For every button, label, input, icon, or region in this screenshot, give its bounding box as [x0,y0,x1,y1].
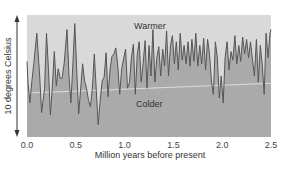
y-axis-label: 10 degrees Celsius [3,37,13,115]
x-axis-label: Million years before present [95,150,206,160]
x-tick-label: 1.5 [167,140,180,150]
x-tick-label: 2.0 [216,140,229,150]
temperature-chart: Warmer Colder 10 degrees Celsius 0.00.51… [0,0,293,171]
annotation-warmer: Warmer [134,21,166,31]
annotation-colder: Colder [136,99,163,109]
x-tick-label: 2.5 [265,140,278,150]
arrow-down-icon [15,130,20,137]
x-tick-label: 0.0 [21,140,34,150]
x-tick-label: 0.5 [70,140,83,150]
arrow-up-icon [15,15,20,22]
x-tick-label: 1.0 [118,140,131,150]
